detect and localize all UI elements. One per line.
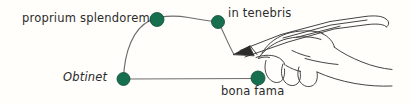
node-label-proprium-splendorem: proprium splendorem xyxy=(22,13,150,25)
node-bona-fama[interactable] xyxy=(251,71,265,85)
hand-knuckle-crease xyxy=(292,51,310,57)
node-proprium-splendorem[interactable] xyxy=(150,13,164,27)
pen-end-cap xyxy=(386,19,389,27)
diagram-canvas: proprium splendorem in tenebris Obtinet … xyxy=(0,0,412,104)
edge-layer xyxy=(124,16,259,79)
node-label-obtinet: Obtinet xyxy=(63,72,107,84)
node-in-tenebris[interactable] xyxy=(212,16,225,29)
index-finger xyxy=(262,31,323,53)
hand-back-lower xyxy=(317,72,392,86)
base-edge xyxy=(124,79,259,80)
thumb xyxy=(256,55,285,65)
node-label-bona-fama: bona fama xyxy=(221,86,284,98)
node-label-in-tenebris: in tenebris xyxy=(228,8,292,20)
thumb-nail xyxy=(259,57,270,59)
hand-wrist-crease xyxy=(305,59,338,65)
hand-back-upper xyxy=(334,47,392,70)
index-knuckle xyxy=(322,34,335,48)
node-obtinet[interactable] xyxy=(117,73,130,86)
